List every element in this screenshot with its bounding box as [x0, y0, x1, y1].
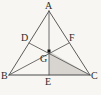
point-label-d: D [21, 33, 28, 43]
vertex-label-c: C [91, 71, 98, 81]
centroid-point-marker [48, 50, 51, 53]
point-label-e: E [45, 77, 51, 87]
vertex-label-a: A [45, 1, 52, 11]
point-label-f: F [69, 33, 75, 43]
point-label-g: G [40, 54, 47, 64]
geometry-figure: A B C D E F G [0, 0, 101, 95]
vertex-label-b: B [1, 71, 8, 81]
